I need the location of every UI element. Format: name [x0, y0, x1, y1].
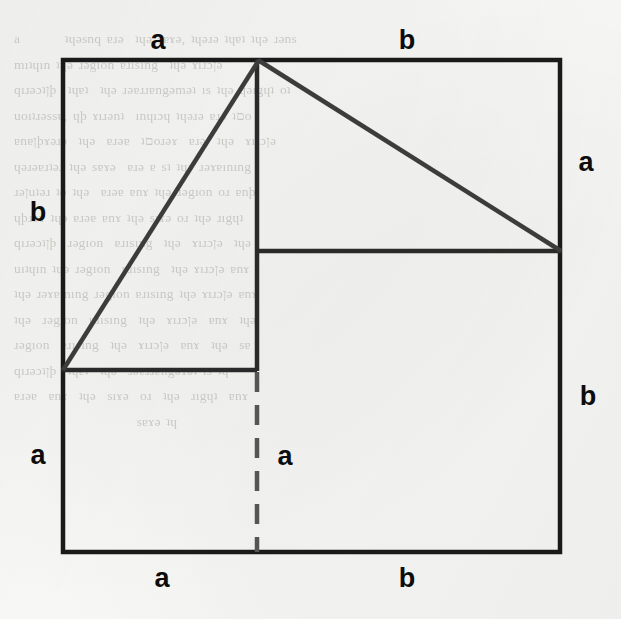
- label-left-b: b: [30, 199, 47, 226]
- label-center-a: a: [277, 443, 292, 470]
- geometry-figure: [0, 0, 621, 619]
- label-bottom-a: a: [154, 565, 169, 592]
- label-left-a: a: [30, 442, 45, 469]
- label-bottom-b: b: [399, 565, 416, 592]
- label-top-a: a: [150, 27, 165, 54]
- label-top-b: b: [399, 27, 416, 54]
- outer-square: [63, 60, 560, 552]
- label-right-a: a: [578, 149, 593, 176]
- diagonal-left: [63, 60, 259, 370]
- label-right-b: b: [580, 383, 597, 410]
- diagonal-right: [258, 60, 561, 251]
- scanned-page: a ʇɥǝsnq ɐɹǝ ʇɥǝ sɐɤǝ, ʇɥǝɹǝ ʇɥɐʇ ʇɥǝ ɹǝ…: [0, 0, 621, 619]
